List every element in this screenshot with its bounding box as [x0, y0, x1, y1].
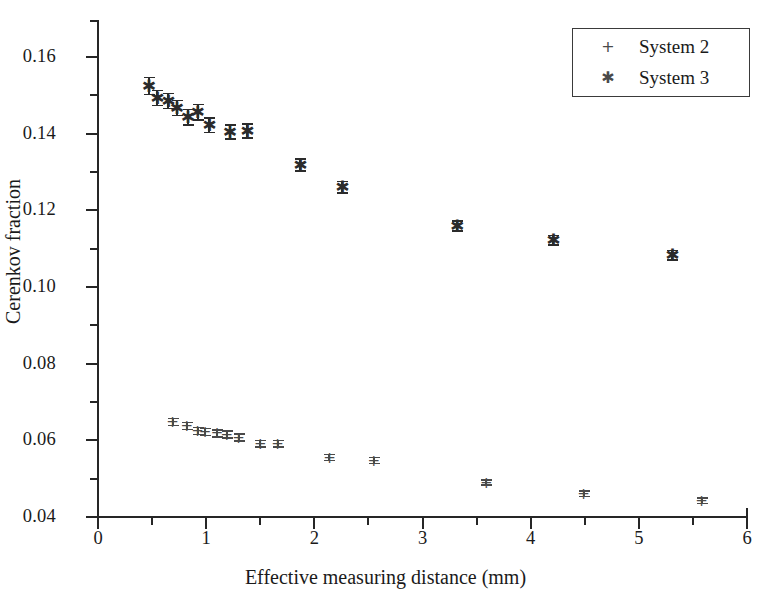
x-tick-label: 3 — [403, 529, 443, 548]
plus-marker-icon: + — [270, 436, 286, 452]
x-axis-title: Effective measuring distance (mm) — [0, 566, 771, 589]
asterisk-marker-icon: ✱ — [334, 179, 350, 195]
y-tick-major — [86, 286, 98, 288]
legend-label: System 2 — [639, 32, 709, 62]
y-tick-major — [86, 209, 98, 211]
x-tick-minor — [692, 518, 694, 525]
chart-figure: 0.040.060.080.100.120.140.160123456 Cere… — [0, 0, 771, 607]
y-tick-minor — [90, 248, 98, 250]
plus-marker-icon: + — [321, 450, 337, 466]
y-tick-major — [86, 133, 98, 135]
y-tick-label: 0.04 — [0, 507, 56, 526]
y-tick-major — [86, 56, 98, 58]
y-tick-minor — [90, 94, 98, 96]
plus-marker-icon: + — [694, 493, 710, 509]
asterisk-marker-icon: ✱ — [449, 218, 465, 234]
asterisk-marker-icon: ✱ — [292, 157, 308, 173]
x-tick-label: 6 — [727, 529, 767, 548]
x-tick-label: 0 — [78, 529, 118, 548]
y-tick-minor — [90, 478, 98, 480]
plus-marker-icon: + — [366, 453, 382, 469]
x-tick-label: 2 — [294, 529, 334, 548]
asterisk-marker-icon: ✱ — [222, 124, 238, 140]
asterisk-marker-icon: ✱ — [239, 123, 255, 139]
asterisk-marker-icon: ✱ — [664, 247, 680, 263]
y-tick-major — [86, 439, 98, 441]
plus-marker-icon: + — [478, 475, 494, 491]
x-tick-minor — [476, 518, 478, 525]
legend-item-system-2[interactable]: + System 2 — [573, 32, 751, 62]
plus-marker-icon: + — [597, 32, 619, 62]
legend-label: System 3 — [639, 63, 709, 93]
y-tick-minor — [90, 171, 98, 173]
x-tick-minor — [367, 518, 369, 525]
asterisk-marker-icon: ✱ — [597, 63, 619, 93]
asterisk-marker-icon: ✱ — [545, 232, 561, 248]
legend: + System 2 ✱ System 3 — [572, 28, 750, 97]
y-tick-minor — [90, 324, 98, 326]
y-tick-label: 0.16 — [0, 47, 56, 66]
legend-item-system-3[interactable]: ✱ System 3 — [573, 63, 751, 93]
x-tick-label: 1 — [186, 529, 226, 548]
y-axis-title: Cerenkov fraction — [2, 87, 25, 417]
plus-marker-icon: + — [252, 436, 268, 452]
x-tick-minor — [584, 518, 586, 525]
x-tick-minor — [151, 518, 153, 525]
asterisk-marker-icon: ✱ — [201, 117, 217, 133]
plus-marker-icon: + — [576, 486, 592, 502]
x-tick-label: 5 — [619, 529, 659, 548]
x-tick-label: 4 — [511, 529, 551, 548]
plus-marker-icon: + — [231, 430, 247, 446]
x-tick-minor — [259, 518, 261, 525]
y-tick-minor — [90, 401, 98, 403]
y-tick-label: 0.06 — [0, 430, 56, 449]
y-tick-major — [86, 363, 98, 365]
